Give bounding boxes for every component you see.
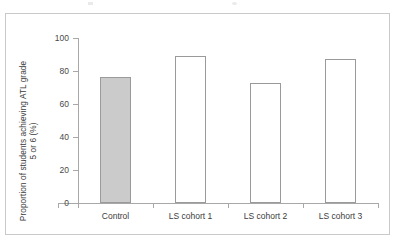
bar-control[interactable] xyxy=(100,77,131,203)
y-axis-tick xyxy=(73,71,78,72)
x-axis-tick xyxy=(228,203,229,208)
x-axis-tick-label: LS cohort 1 xyxy=(169,211,212,221)
x-axis-tick-label: LS cohort 3 xyxy=(319,211,362,221)
x-axis-tick xyxy=(303,203,304,208)
x-axis-tick-label: LS cohort 2 xyxy=(244,211,287,221)
y-axis-tick xyxy=(73,104,78,105)
bar-ls-cohort-1[interactable] xyxy=(175,56,206,203)
y-axis-tick xyxy=(73,38,78,39)
y-axis-tick xyxy=(73,170,78,171)
y-axis-line xyxy=(78,38,79,204)
bar-ls-cohort-2[interactable] xyxy=(250,83,281,203)
x-axis-tick-label: Control xyxy=(102,211,129,221)
x-axis-tick xyxy=(153,203,154,208)
y-axis-tick-label: 100 xyxy=(55,33,69,43)
y-axis-tick-label: 20 xyxy=(60,165,69,175)
y-axis-tick-label: 40 xyxy=(60,132,69,142)
y-axis-tick-label: 60 xyxy=(60,99,69,109)
bar-ls-cohort-3[interactable] xyxy=(325,59,356,203)
x-axis-tick xyxy=(58,203,59,208)
x-axis-tick xyxy=(78,203,79,208)
y-axis-tick xyxy=(73,137,78,138)
y-axis-tick-label: 0 xyxy=(64,198,69,208)
x-axis-line xyxy=(58,203,378,204)
plot-area: 020406080100 ControlLS cohort 1LS cohort… xyxy=(0,0,395,249)
x-axis-tick xyxy=(378,203,379,208)
y-axis-tick-label: 80 xyxy=(60,66,69,76)
